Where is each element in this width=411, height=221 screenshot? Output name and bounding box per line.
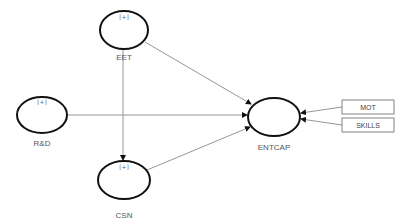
indicator-mot-label: MOT <box>360 104 376 111</box>
node-rd-marker: [+] <box>37 98 47 105</box>
node-eet-label: EET <box>116 53 132 62</box>
edge-csn-entcap <box>147 127 250 170</box>
indicator-mot[interactable]: MOT <box>342 100 394 114</box>
node-eet[interactable]: [+] EET <box>100 11 148 62</box>
node-entcap-ellipse[interactable] <box>248 98 300 136</box>
node-csn-marker: [+] <box>119 163 129 170</box>
node-csn-label: CSN <box>116 211 133 220</box>
sem-diagram: [+] EET [+] R&D [+] CSN ENTCAP MOT SKILL… <box>0 0 411 221</box>
edge-skills-entcap <box>301 119 342 125</box>
node-rd[interactable]: [+] R&D <box>17 97 67 148</box>
node-eet-marker: [+] <box>119 13 129 20</box>
node-rd-label: R&D <box>34 139 51 148</box>
node-entcap-label: ENTCAP <box>258 143 290 152</box>
node-entcap[interactable]: ENTCAP <box>248 98 300 152</box>
indicator-skills-label: SKILLS <box>356 122 380 129</box>
edge-mot-entcap <box>301 107 342 113</box>
node-csn[interactable]: [+] CSN <box>98 161 150 220</box>
indicator-skills[interactable]: SKILLS <box>342 118 394 132</box>
edge-eet-entcap <box>145 42 251 104</box>
